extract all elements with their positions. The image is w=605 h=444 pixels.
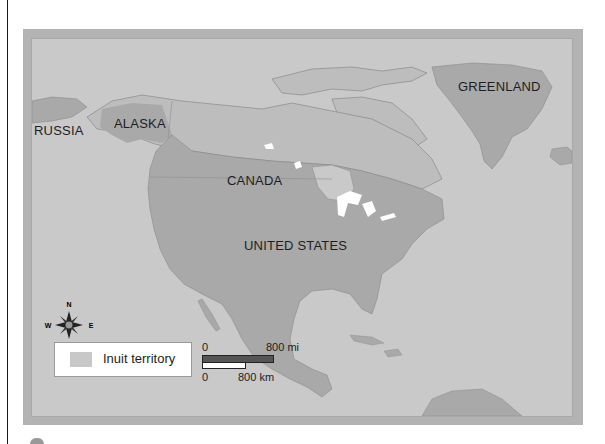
label-alaska: ALASKA — [114, 116, 166, 131]
svg-text:E: E — [89, 322, 94, 329]
scale-bar: 0 800 mi 0 800 km — [202, 341, 312, 387]
map-area: RUSSIA ALASKA CANADA GREENLAND UNITED ST… — [31, 38, 573, 417]
page-margin-rule — [7, 0, 8, 444]
scale-km-end: 800 km — [238, 371, 274, 383]
label-greenland: GREENLAND — [458, 79, 541, 94]
svg-text:W: W — [45, 322, 52, 329]
scale-mi-end: 800 mi — [266, 341, 299, 353]
label-united-states: UNITED STATES — [244, 238, 347, 253]
legend-label: Inuit territory — [103, 351, 175, 366]
map-frame: RUSSIA ALASKA CANADA GREENLAND UNITED ST… — [23, 29, 583, 425]
scale-km-start: 0 — [202, 371, 208, 383]
label-canada: CANADA — [227, 173, 282, 188]
scale-bar-kilometers — [202, 362, 246, 369]
label-russia: RUSSIA — [34, 123, 84, 138]
scale-mi-start: 0 — [202, 341, 208, 353]
map-legend: Inuit territory — [54, 342, 192, 377]
partial-icon — [30, 438, 44, 444]
svg-text:N: N — [66, 301, 71, 308]
inuit-territory-swatch — [70, 352, 92, 367]
